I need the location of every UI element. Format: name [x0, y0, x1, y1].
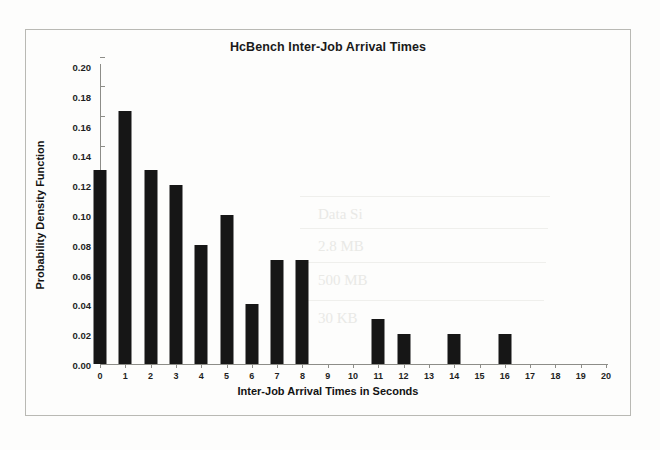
bar	[144, 170, 157, 364]
x-axis-tick-mark	[429, 364, 430, 368]
x-axis-tick-mark	[252, 364, 253, 368]
x-axis-tick-mark	[378, 364, 379, 368]
x-axis-tick-label: 15	[474, 371, 484, 381]
y-axis-tick: 0.20	[73, 57, 101, 75]
bar	[169, 185, 182, 364]
x-axis-tick-label: 14	[449, 371, 459, 381]
x-axis-tick-mark	[454, 364, 455, 368]
y-axis-tick-mark	[100, 116, 105, 117]
y-axis-tick: 0.18	[73, 87, 101, 105]
x-axis-tick-label: 5	[224, 371, 229, 381]
x-axis-tick-label: 8	[300, 371, 305, 381]
y-axis-tick-label: 0.14	[73, 151, 101, 162]
bar	[271, 260, 284, 364]
x-axis-tick-label: 9	[325, 371, 330, 381]
y-axis-title-label: Probability Density Function	[34, 140, 46, 289]
x-axis-tick-mark	[581, 364, 582, 368]
bar	[94, 170, 107, 364]
y-axis-title: Probability Density Function	[32, 66, 48, 364]
x-axis-tick-mark	[353, 364, 354, 368]
x-axis-tick-mark	[302, 364, 303, 368]
x-axis-tick-mark	[606, 364, 607, 368]
x-axis-tick-label: 1	[123, 371, 128, 381]
plot-area: 0.000.020.040.060.080.100.120.140.160.18…	[100, 66, 606, 364]
x-axis-tick-label: 4	[199, 371, 204, 381]
y-axis-tick: 0.14	[73, 146, 101, 164]
x-axis-tick-mark	[328, 364, 329, 368]
bar	[448, 334, 461, 364]
x-axis-tick-label: 13	[424, 371, 434, 381]
x-axis-tick-label: 10	[348, 371, 358, 381]
x-axis-tick-mark	[176, 364, 177, 368]
bar	[498, 334, 511, 364]
x-axis-tick-label: 11	[374, 371, 384, 381]
x-axis-tick-label: 19	[576, 371, 586, 381]
x-axis-tick-label: 7	[275, 371, 280, 381]
x-axis-tick-mark	[100, 364, 101, 368]
y-axis-tick-label: 0.18	[73, 92, 101, 103]
y-axis-tick-label: 0.16	[73, 122, 101, 133]
x-axis-tick-label: 16	[500, 371, 510, 381]
chart-figure-frame: HcBench Inter-Job Arrival Times Probabil…	[25, 29, 631, 416]
x-axis-tick-label: 12	[399, 371, 409, 381]
x-axis-tick-label: 0	[97, 371, 102, 381]
x-axis-tick-mark	[480, 364, 481, 368]
x-axis-tick-mark	[201, 364, 202, 368]
x-axis-tick-label: 2	[148, 371, 153, 381]
x-axis-tick-mark	[505, 364, 506, 368]
x-axis-tick-label: 17	[525, 371, 535, 381]
x-axis-tick-label: 18	[550, 371, 560, 381]
x-axis-title: Inter-Job Arrival Times in Seconds	[26, 385, 630, 397]
bar	[372, 319, 385, 364]
x-axis-tick-label: 6	[249, 371, 254, 381]
y-axis-tick-mark	[100, 57, 105, 58]
x-axis-tick-mark	[404, 364, 405, 368]
x-axis-tick-mark	[277, 364, 278, 368]
bar	[119, 111, 132, 364]
x-axis-tick-mark	[555, 364, 556, 368]
bar	[397, 334, 410, 364]
x-axis-tick-mark	[151, 364, 152, 368]
x-axis-tick-mark	[125, 364, 126, 368]
bar	[296, 260, 309, 364]
x-axis-tick-mark	[227, 364, 228, 368]
bar	[245, 304, 258, 364]
chart-title: HcBench Inter-Job Arrival Times	[26, 40, 630, 54]
y-axis-tick-label: 0.20	[73, 62, 101, 73]
x-axis-tick-mark	[530, 364, 531, 368]
bar	[195, 245, 208, 364]
x-axis-tick-label: 3	[173, 371, 178, 381]
x-axis-tick-label: 20	[601, 371, 611, 381]
bar	[220, 215, 233, 364]
y-axis-tick-mark	[100, 86, 105, 87]
y-axis-tick-mark	[100, 146, 105, 147]
y-axis-tick: 0.16	[73, 117, 101, 135]
